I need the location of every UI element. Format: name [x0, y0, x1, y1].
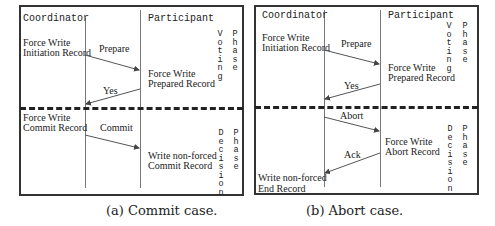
message-arrows [0, 0, 495, 226]
